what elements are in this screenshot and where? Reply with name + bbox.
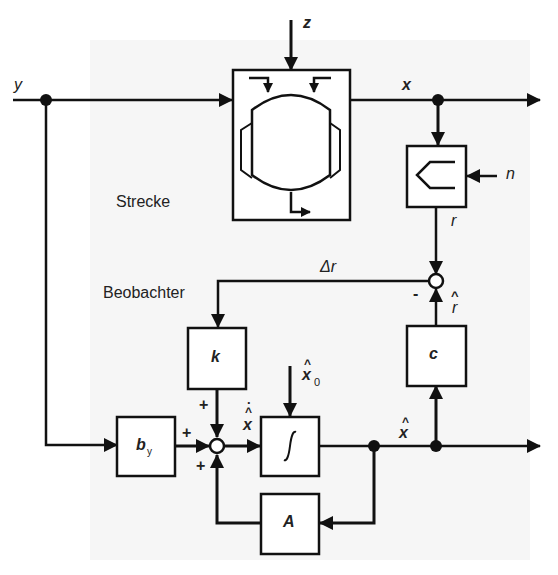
state-x-label: x bbox=[402, 76, 411, 94]
input-y-line bbox=[13, 94, 232, 445]
residual-sum-junction bbox=[429, 274, 443, 288]
initial-state-subscript: 0 bbox=[314, 376, 320, 388]
diagram-lines bbox=[0, 0, 558, 575]
noise-n-label: n bbox=[506, 165, 515, 183]
estimated-state-derivative-label: x bbox=[243, 416, 252, 434]
sensor-block bbox=[407, 146, 466, 207]
state-x-line bbox=[350, 94, 540, 145]
output-c-label: c bbox=[429, 345, 438, 363]
sum-plus-top: + bbox=[199, 396, 208, 414]
plant-block bbox=[233, 70, 350, 220]
estimated-measurement-label: r bbox=[452, 299, 457, 317]
disturbance-z-label: z bbox=[303, 14, 311, 32]
residual-line bbox=[218, 281, 429, 327]
observer-region-label: Beobachter bbox=[103, 284, 185, 302]
estimated-state-line bbox=[319, 386, 540, 523]
sum-plus-bottom: + bbox=[196, 457, 205, 475]
input-gain-label: b bbox=[136, 436, 146, 454]
input-gain-block bbox=[117, 417, 175, 476]
system-A-label: A bbox=[283, 513, 295, 531]
plant-region-label: Strecke bbox=[116, 193, 170, 211]
initial-state-label: x bbox=[302, 366, 311, 384]
diagram-canvas: y z x n r Strecke Beobachter Δr - ^ r k … bbox=[0, 0, 558, 575]
A-feedback-line bbox=[217, 455, 261, 523]
sum-plus-left: + bbox=[182, 424, 191, 442]
estimated-state-label: x bbox=[399, 424, 408, 442]
residual-label: Δr bbox=[320, 258, 336, 276]
observer-sum-junction bbox=[210, 439, 224, 453]
residual-minus-sign: - bbox=[413, 285, 418, 303]
input-y-label: y bbox=[14, 76, 22, 94]
gain-k-label: k bbox=[211, 348, 220, 366]
input-gain-subscript: y bbox=[147, 446, 152, 457]
integrator-block bbox=[261, 417, 319, 476]
measurement-r-label: r bbox=[451, 212, 456, 230]
